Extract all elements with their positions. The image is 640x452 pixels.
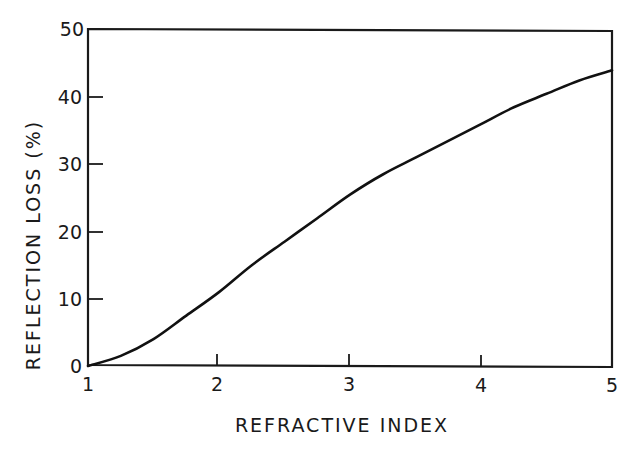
- y-tick-20: 20: [58, 221, 82, 243]
- y-tick-10: 10: [58, 288, 82, 310]
- x-tick-labels: 1 2 3 4 5: [82, 373, 618, 396]
- x-axis-title: REFRACTIVE INDEX: [235, 414, 449, 436]
- y-tick-labels: 0 10 20 30 40 50: [58, 18, 84, 377]
- y-axis-ticks: [89, 97, 103, 299]
- x-tick-2: 2: [211, 373, 223, 395]
- x-tick-4: 4: [475, 374, 487, 396]
- plot-frame: [88, 29, 612, 367]
- x-tick-5: 5: [606, 374, 618, 396]
- y-axis-title: REFLECTION LOSS (%): [22, 120, 44, 370]
- y-tick-30: 30: [58, 153, 82, 175]
- reflection-loss-curve: [88, 70, 612, 366]
- y-tick-50: 50: [60, 18, 84, 40]
- reflection-loss-chart: 0 10 20 30 40 50 1 2 3 4 5 REFRACTIVE IN…: [0, 0, 640, 452]
- x-tick-3: 3: [343, 373, 355, 395]
- y-tick-0: 0: [70, 355, 82, 377]
- x-tick-1: 1: [82, 373, 94, 395]
- y-tick-40: 40: [58, 86, 82, 108]
